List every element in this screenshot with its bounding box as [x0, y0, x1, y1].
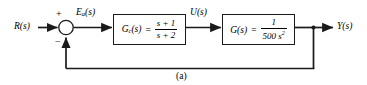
- plant-block[interactable]: G(s) = 1 500 s2: [222, 14, 295, 45]
- controller-numerator: s + 1: [155, 19, 178, 29]
- plant-denominator: 500 s2: [261, 28, 287, 41]
- plant-fraction: 1 500 s2: [261, 18, 287, 41]
- signal-label-error: Ea(s): [76, 8, 95, 18]
- controller-block[interactable]: Gc(s) = s + 1 s + 2: [113, 14, 186, 45]
- controller-label: Gc(s): [122, 24, 142, 34]
- signal-label-control: U(s): [190, 8, 207, 18]
- summer-minus-sign: −: [55, 37, 61, 47]
- summing-junction-circle: [59, 20, 73, 34]
- block-diagram-figure: R(s) Ea(s) U(s) Y(s) + − Gc(s) = s + 1 s…: [0, 0, 367, 85]
- signal-label-input: R(s): [14, 22, 30, 32]
- controller-fraction: s + 1 s + 2: [155, 19, 178, 40]
- signal-label-output: Y(s): [337, 22, 352, 32]
- plant-label: G(s): [230, 25, 247, 35]
- plant-equals: =: [250, 25, 257, 35]
- figure-caption: (a): [176, 71, 187, 81]
- controller-denominator: s + 2: [155, 29, 178, 40]
- controller-equals: =: [144, 25, 151, 35]
- plant-numerator: 1: [269, 18, 278, 28]
- summer-plus-sign: +: [56, 9, 62, 19]
